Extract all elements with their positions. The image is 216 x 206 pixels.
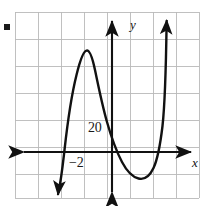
x-intercept-label: −2 <box>69 156 84 170</box>
coordinate-graph-figure <box>0 0 216 206</box>
x-axis-label: x <box>192 156 198 169</box>
y-value-label: 20 <box>88 121 102 135</box>
y-axis-label: y <box>130 18 136 31</box>
curve-left-arrow-icon <box>58 186 59 195</box>
